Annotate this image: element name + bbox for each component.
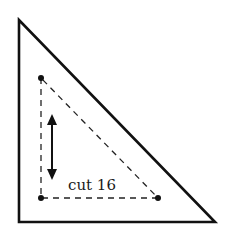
triangle-template-diagram: cut 16 xyxy=(0,0,233,239)
outer-triangle xyxy=(19,20,215,222)
corner-dot-top xyxy=(38,75,44,81)
grain-arrow-icon xyxy=(47,114,57,180)
cut-label: cut 16 xyxy=(68,176,116,194)
corner-dot-bottom-right xyxy=(155,195,161,201)
corner-dot-bottom-left xyxy=(38,195,44,201)
